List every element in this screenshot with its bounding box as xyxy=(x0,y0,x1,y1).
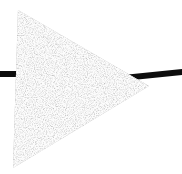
figure-svg xyxy=(0,0,182,174)
figure-canvas: A gray stippled triangle pointing right,… xyxy=(0,0,182,174)
